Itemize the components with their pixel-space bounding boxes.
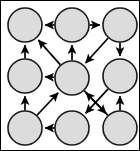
graph-node-n4 (8, 59, 42, 93)
node-layer (8, 8, 137, 145)
graph-node-n1 (8, 8, 42, 42)
graph-node-n2 (55, 8, 89, 42)
graph-node-n8 (55, 111, 89, 145)
graph-figure (0, 0, 140, 151)
graph-edge-n3-to-n5 (86, 38, 109, 63)
graph-edge-n7-to-n5 (37, 93, 58, 116)
graph-node-n6 (103, 59, 137, 93)
graph-node-n7 (8, 111, 42, 145)
graph-node-n5 (55, 61, 89, 95)
graph-edge-n6-to-n8 (86, 89, 108, 113)
graph-edge-n9-to-n5 (86, 93, 108, 116)
graph-edge-n5-to-n1 (38, 40, 60, 65)
graph-node-n9 (103, 111, 137, 145)
graph-node-n3 (103, 8, 137, 42)
graph-canvas (0, 0, 140, 151)
